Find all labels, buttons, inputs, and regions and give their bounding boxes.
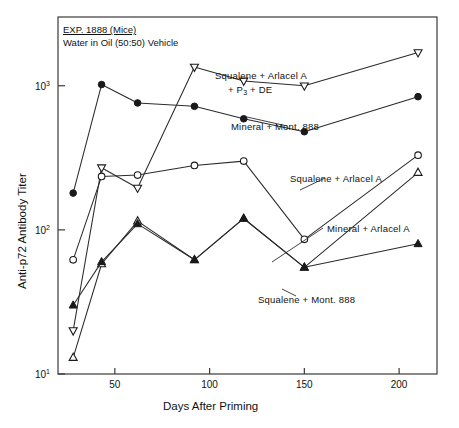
series-squalene-arlacel-a-p3-de-marker <box>134 185 142 192</box>
series-squalene-mont-888-marker <box>240 214 248 221</box>
series-label-squalene-mont888: Squalene + Mont. 888 <box>258 294 355 305</box>
series-squalene-mont-888-marker <box>414 239 422 246</box>
series-label-squalene-arlacel-p3-de-line2: + P3 + DE <box>228 84 272 96</box>
x-tick-label-150: 150 <box>296 379 313 390</box>
annotation-leader-2 <box>272 228 323 262</box>
p3-prefix: + P <box>228 84 243 95</box>
series-mineral-mont-888-marker <box>191 103 198 110</box>
series-mineral-mont-888-marker <box>415 93 422 100</box>
series-squalene-arlacel-a-p3-de-marker <box>98 165 106 172</box>
y-tick-label-100: 102 <box>35 224 50 236</box>
series-label-squalene-arlacel: Squalene + Arlacel A <box>290 173 382 184</box>
series-squalene-arlacel-a-marker <box>70 257 77 264</box>
series-mineral-mont-888-marker <box>98 81 105 88</box>
series-mineral-mont-888-marker <box>134 100 141 107</box>
p3-suffix: + DE <box>247 84 272 95</box>
y-axis-title: Anti-p72 Antibody Titer <box>16 173 28 289</box>
x-tick-label-200: 200 <box>391 379 408 390</box>
series-label-mineral-mont888: Mineral + Mont. 888 <box>231 121 319 132</box>
y-tick-label-10: 101 <box>35 368 50 380</box>
series-label-mineral-arlacel: Mineral + Arlacel A <box>327 223 410 234</box>
y-tick-label-1000: 103 <box>35 80 50 92</box>
series-mineral-arlacel-a-marker <box>69 353 77 360</box>
series-squalene-arlacel-a-marker <box>98 173 105 180</box>
series-squalene-arlacel-a-p3-de-marker <box>300 83 308 90</box>
vehicle-subtitle: Water in Oil (50:50) Vehicle <box>63 37 178 48</box>
experiment-title: EXP. 1888 (Mice) <box>63 24 136 35</box>
plot-area: 50100150200103102101 <box>0 0 459 428</box>
series-line-mineral-arlacel-a <box>73 173 418 358</box>
x-tick-label-50: 50 <box>109 379 121 390</box>
series-mineral-mont-888-marker <box>70 190 77 197</box>
series-squalene-arlacel-a-marker <box>191 162 198 169</box>
series-mineral-arlacel-a-marker <box>414 168 422 175</box>
series-label-squalene-arlacel-p3-de-line1: Squalene + Arlacel A <box>215 70 307 81</box>
series-squalene-arlacel-a-p3-de-marker <box>69 328 77 335</box>
x-axis-title: Days After Priming <box>163 400 258 412</box>
series-line-squalene-arlacel-a <box>73 155 418 260</box>
series-squalene-arlacel-a-marker <box>240 158 247 165</box>
series-squalene-mont-888-marker <box>190 255 198 262</box>
series-squalene-arlacel-a-marker <box>134 172 141 179</box>
x-tick-label-100: 100 <box>201 379 218 390</box>
series-squalene-arlacel-a-marker <box>415 152 422 159</box>
chart-figure: 50100150200103102101 EXP. 1888 (Mice) Wa… <box>0 0 459 428</box>
